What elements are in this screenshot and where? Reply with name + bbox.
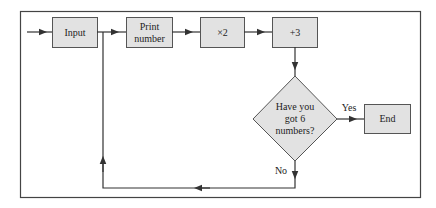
end-label: End	[364, 104, 411, 134]
no-edge-label: No	[272, 165, 290, 177]
print-number-label: Print number	[126, 17, 173, 48]
input-label: Input	[52, 17, 98, 48]
times-two-label: ×2	[200, 17, 245, 48]
decision-line-2: got 6	[285, 113, 305, 125]
decision-label: Have you got 6 numbers?	[260, 100, 330, 138]
decision-line-1: Have you	[276, 101, 315, 113]
decision-line-3: numbers?	[276, 125, 315, 137]
print-number-line-2: number	[134, 33, 165, 45]
print-number-line-1: Print	[140, 21, 159, 33]
yes-edge-label: Yes	[337, 102, 361, 114]
plus-three-label: +3	[272, 17, 318, 48]
